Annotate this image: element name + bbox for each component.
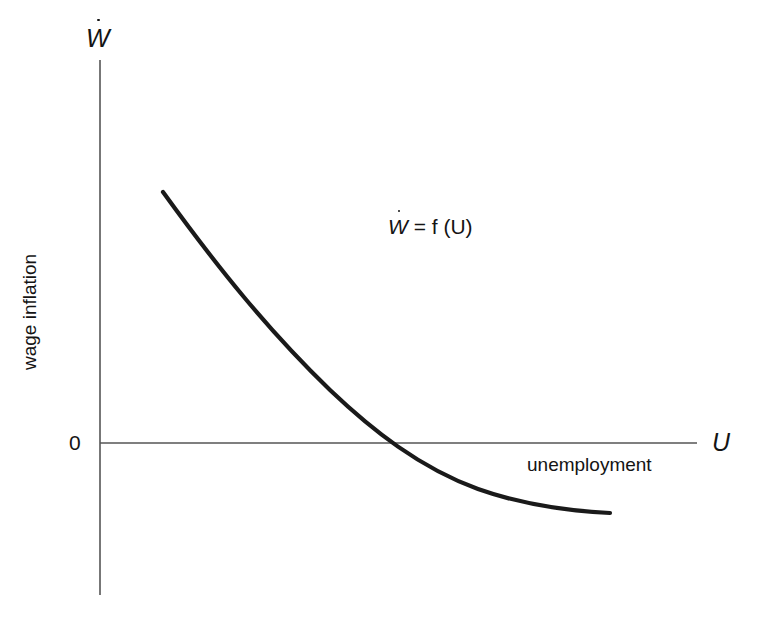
equation-rhs: = f (U) — [408, 215, 473, 238]
equation-annotation: W = f (U) — [388, 216, 473, 237]
equation-lhs-dot-icon — [398, 210, 400, 212]
y-axis-symbol: W — [86, 26, 110, 51]
y-axis-symbol-letter: W — [86, 24, 110, 52]
phillips-curve-figure: W U 0 unemployment wage inflation W = f … — [0, 0, 773, 623]
y-axis-title: wage inflation — [20, 254, 39, 370]
equation-lhs-letter: W — [388, 215, 408, 238]
x-axis-title: unemployment — [527, 455, 652, 474]
origin-label: 0 — [69, 432, 81, 453]
chart-canvas — [0, 0, 773, 623]
x-axis-symbol: U — [712, 430, 730, 455]
